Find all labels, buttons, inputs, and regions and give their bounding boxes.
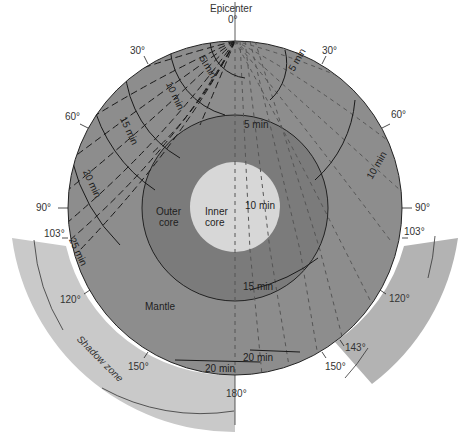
time-core-20a: 20 min bbox=[243, 353, 273, 363]
angle-right-30: 30° bbox=[322, 46, 337, 56]
angle-right-60: 60° bbox=[391, 110, 406, 120]
angle-left-150: 150° bbox=[128, 362, 149, 372]
angle-right-103: 103° bbox=[404, 227, 425, 237]
time-core-5: 5 min bbox=[244, 120, 268, 130]
angle-right-120: 120° bbox=[389, 294, 410, 304]
angle-right-150: 150° bbox=[325, 362, 346, 372]
outer-core-label-2: core bbox=[159, 218, 178, 228]
angle-left-103: 103° bbox=[44, 229, 65, 239]
inner-core-label-2: core bbox=[205, 218, 224, 228]
angle-left-120: 120° bbox=[60, 295, 81, 305]
epicenter-angle-label: 0° bbox=[228, 15, 238, 25]
inner-core-label-1: Inner bbox=[205, 207, 228, 217]
time-core-20b: 20 min bbox=[205, 364, 235, 374]
epicenter-label: Epicenter bbox=[210, 4, 252, 14]
angle-left-60: 60° bbox=[65, 112, 80, 122]
time-core-15: 15 min bbox=[243, 282, 273, 292]
angle-left-90: 90° bbox=[36, 203, 51, 213]
mantle-label: Mantle bbox=[145, 302, 175, 312]
angle-right-90: 90° bbox=[415, 203, 430, 213]
time-core-10: 10 min bbox=[245, 201, 275, 211]
outer-core-label-1: Outer bbox=[156, 207, 181, 217]
angle-bottom-180: 180° bbox=[226, 389, 247, 399]
angle-left-30: 30° bbox=[130, 46, 145, 56]
angle-right-143: 143° bbox=[345, 343, 366, 353]
